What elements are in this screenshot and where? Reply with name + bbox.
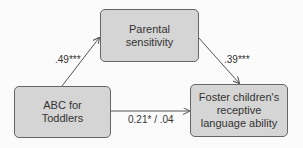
node-label: ABC for Toddlers xyxy=(42,99,84,125)
node-label: Parental sensitivity xyxy=(126,23,174,49)
node-parental-sensitivity: Parental sensitivity xyxy=(100,9,199,62)
node-label: Foster children's receptive language abi… xyxy=(199,91,279,130)
node-foster-language: Foster children's receptive language abi… xyxy=(190,84,288,137)
edge-label-parental-foster: .39*** xyxy=(224,54,250,65)
edge-label-abc-parental: .49*** xyxy=(55,54,81,65)
node-abc-for-toddlers: ABC for Toddlers xyxy=(14,86,111,138)
edge-label-abc-foster: 0.21* / .04 xyxy=(128,114,174,125)
